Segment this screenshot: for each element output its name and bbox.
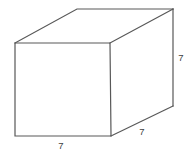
label-right-vertical-edge: 7 xyxy=(178,52,183,63)
cube-diagram: 7 7 7 xyxy=(0,0,192,156)
front-face xyxy=(15,43,111,136)
label-bottom-front-edge: 7 xyxy=(58,140,63,151)
label-bottom-right-depth-edge: 7 xyxy=(139,126,144,137)
